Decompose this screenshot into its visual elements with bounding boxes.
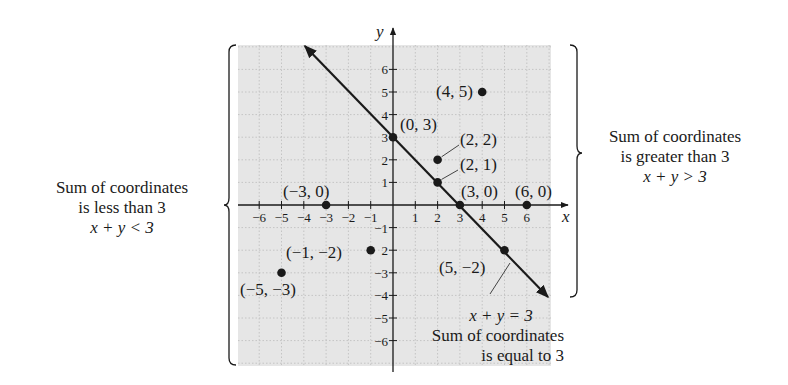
data-point: [389, 133, 398, 142]
x-tick-label: −2: [341, 210, 355, 225]
line-label: x + y = 3 Sum of coordinates is equal to…: [400, 306, 564, 366]
x-tick-label: −4: [297, 210, 311, 225]
data-point: [433, 178, 442, 187]
coordinate-plane-figure: xy−6−5−4−3−2−1123456−6−5−4−32−1123456(4,…: [0, 0, 788, 385]
data-point: [277, 269, 286, 278]
x-tick-label: −3: [319, 210, 333, 225]
right-region-line1: Sum of coordinates: [585, 127, 765, 147]
left-region-label: Sum of coordinates is less than 3 x + y …: [22, 178, 222, 238]
y-tick-label: 2: [382, 153, 389, 168]
line-equation: x + y = 3: [422, 306, 556, 326]
line-description-line2: is equal to 3: [400, 346, 564, 366]
left-region-line1: Sum of coordinates: [22, 178, 222, 198]
line-description-line1: Sum of coordinates: [400, 326, 564, 346]
point-label: (2, 2): [460, 130, 497, 149]
x-tick-label: 6: [524, 210, 531, 225]
x-tick-label: 5: [501, 210, 508, 225]
y-axis-label: y: [374, 22, 384, 41]
data-point: [366, 246, 375, 255]
x-tick-label: 2: [434, 210, 441, 225]
x-tick-label: −6: [252, 210, 266, 225]
data-point: [322, 201, 331, 210]
data-point: [478, 88, 487, 97]
y-tick-label: 5: [382, 85, 389, 100]
y-tick-label: −6: [374, 334, 388, 349]
left-brace: [224, 45, 236, 365]
y-tick-label: 3: [382, 130, 389, 145]
y-tick-label: 6: [382, 62, 389, 77]
point-label: (6, 0): [515, 182, 552, 201]
x-tick-label: 1: [412, 210, 419, 225]
right-region-line2: is greater than 3: [585, 147, 765, 167]
x-axis-label: x: [561, 207, 570, 226]
y-tick-label: −4: [374, 288, 388, 303]
y-tick-label: −1: [374, 221, 388, 236]
data-point: [433, 156, 442, 165]
left-region-inequality: x + y < 3: [22, 218, 222, 238]
y-tick-label: −5: [374, 311, 388, 326]
data-point: [456, 201, 465, 210]
left-region-line2: is less than 3: [22, 198, 222, 218]
y-tick-label: 1: [382, 175, 389, 190]
data-point: [523, 201, 532, 210]
x-tick-label: 4: [479, 210, 486, 225]
point-label: (2, 1): [460, 155, 497, 174]
y-tick-label: 4: [382, 108, 389, 123]
point-label: (−5, −3): [240, 280, 296, 299]
point-label: (−3, 0): [283, 182, 329, 201]
point-label: (−1, −2): [286, 243, 342, 262]
right-brace: [570, 45, 582, 297]
y-tick-label: 2: [382, 243, 389, 258]
point-label: (0, 3): [400, 115, 437, 134]
right-region-inequality: x + y > 3: [585, 167, 765, 187]
point-label: (4, 5): [436, 82, 473, 101]
y-tick-label: −3: [374, 266, 388, 281]
x-tick-label: 3: [457, 210, 464, 225]
right-region-label: Sum of coordinates is greater than 3 x +…: [585, 127, 765, 187]
data-point: [500, 246, 509, 255]
x-tick-label: −5: [275, 210, 289, 225]
point-label: (3, 0): [461, 182, 498, 201]
point-label: (5, −2): [439, 258, 485, 277]
